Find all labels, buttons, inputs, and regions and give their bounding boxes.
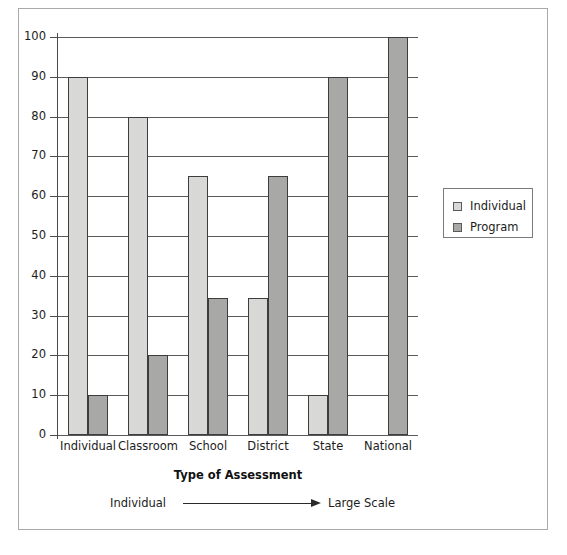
y-tick-label-text: 80 [16,111,46,122]
scale-arrow-line [183,503,313,504]
bar-district-program [268,176,288,435]
y-tick-mark [50,276,57,277]
legend-label: Individual [470,200,526,212]
y-tick-mark [50,355,57,356]
y-tick-mark [50,196,57,197]
bar-national-program [388,37,408,435]
y-tick-label: 100 [8,31,46,42]
y-tick-label-text: 50 [16,230,46,241]
bar-classroom-individual [128,117,148,435]
y-tick-label: 10 [8,389,46,400]
y-tick-mark [50,395,57,396]
gridline [58,276,418,277]
y-tick-mark [50,117,57,118]
y-tick-label-text: 10 [16,389,46,400]
gridline [58,117,418,118]
y-tick-label-text: 30 [16,310,46,321]
scale-right-label: Large Scale [328,496,395,510]
y-tick-label: 80 [8,111,46,122]
plot-area [58,37,418,435]
bar-school-program [208,298,228,435]
gridline [58,77,418,78]
y-tick-label-text: 90 [16,71,46,82]
bar-school-individual [188,176,208,435]
x-category-label-classroom: Classroom [118,440,178,453]
legend-label: Program [470,221,519,233]
gridline [58,355,418,356]
legend-swatch-icon [453,223,462,232]
x-category-label-individual: Individual [58,440,118,453]
scale-arrow-head-icon [311,499,321,507]
y-tick-label: 70 [8,150,46,161]
gridline [58,37,418,38]
y-tick-label-text: 100 [16,31,46,42]
legend-item-program[interactable]: Program [453,220,519,234]
legend-item-individual[interactable]: Individual [453,199,526,213]
gridline [58,395,418,396]
y-tick-label: 0 [8,429,46,440]
legend-swatch-icon [453,202,462,211]
x-axis-baseline [58,435,418,436]
y-tick-label-text: 40 [16,270,46,281]
chart-legend: IndividualProgram [443,188,533,238]
bar-individual-program [88,395,108,435]
y-tick-label: 60 [8,190,46,201]
y-tick-mark [50,316,57,317]
y-tick-mark [50,37,57,38]
x-category-label-national: National [358,440,418,453]
y-tick-label: 90 [8,71,46,82]
scale-annotation: Individual Large Scale [58,495,438,513]
y-tick-label: 50 [8,230,46,241]
bar-individual-individual [68,77,88,435]
gridline [58,316,418,317]
x-category-label-district: District [238,440,298,453]
y-tick-label-text: 0 [16,429,46,440]
y-tick-label: 20 [8,349,46,360]
x-category-label-state: State [298,440,358,453]
y-tick-label-text: 70 [16,150,46,161]
gridline [58,236,418,237]
y-tick-label-text: 60 [16,190,46,201]
bar-classroom-program [148,355,168,435]
scale-left-label: Individual [110,496,166,510]
y-tick-mark [50,156,57,157]
x-axis-title: Type of Assessment [58,468,418,482]
bar-state-program [328,77,348,435]
y-tick-label: 30 [8,310,46,321]
bar-state-individual [308,395,328,435]
gridline [58,196,418,197]
y-tick-mark [50,77,57,78]
y-tick-mark [50,435,57,436]
y-tick-mark [50,236,57,237]
x-category-label-school: School [178,440,238,453]
bar-chart-figure: 0102030405060708090100 Type of Assessmen… [0,0,567,555]
bar-district-individual [248,298,268,435]
y-tick-label-text: 20 [16,349,46,360]
gridline [58,156,418,157]
y-tick-label: 40 [8,270,46,281]
